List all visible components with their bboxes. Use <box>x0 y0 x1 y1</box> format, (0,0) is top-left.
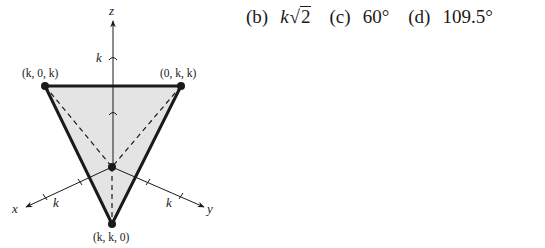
answer-d: (d) 109.5° <box>408 6 493 28</box>
x-axis-label: x <box>11 201 18 216</box>
answer-d-key: (d) <box>408 6 430 28</box>
vertex-dot-left-top <box>41 82 49 90</box>
answer-d-value: 109.5° <box>442 6 492 28</box>
answer-b-key: (b) <box>246 6 268 28</box>
answer-c: (c) 60° <box>330 6 390 28</box>
answer-b: (b) k √ 2 <box>246 6 311 28</box>
answer-b-radicand: 2 <box>300 6 311 27</box>
answer-line: (b) k √ 2 (c) 60° (d) 109.5° <box>246 6 493 32</box>
origin-dot <box>108 163 116 171</box>
tetrahedron-face-diagram: z k x k y k (k, 0, k) (0, k, k) (k, k, 0… <box>0 0 230 248</box>
y-axis-label: y <box>205 201 213 216</box>
y-axis-tick-label: k <box>166 195 172 210</box>
vertex-label-left-top: (k, 0, k) <box>22 67 59 80</box>
answer-c-key: (c) <box>330 6 351 28</box>
vertex-label-right-top: (0, k, k) <box>160 67 197 80</box>
z-axis-label: z <box>108 3 114 18</box>
radical-sign-icon: √ <box>290 6 300 28</box>
vertex-dot-right-top <box>177 82 185 90</box>
vertex-label-bottom: (k, k, 0) <box>93 231 130 244</box>
z-axis-tick-label: k <box>96 50 102 65</box>
answer-b-k: k <box>280 6 288 28</box>
answer-c-value: 60° <box>363 6 390 28</box>
vertex-dot-bottom <box>108 220 116 228</box>
x-axis-tick-label: k <box>53 195 59 210</box>
sqrt-symbol: √ 2 <box>289 6 311 28</box>
